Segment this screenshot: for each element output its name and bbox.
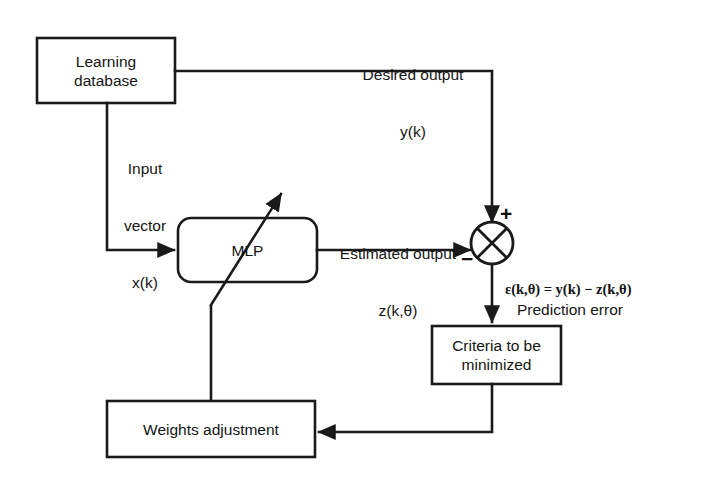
prediction-error-equation: ε(k,θ) = y(k) − z(k,θ): [505, 281, 631, 298]
plus-sign: +: [500, 203, 512, 224]
estimated-output-label: Estimated output z(k,θ): [340, 206, 456, 358]
diagram-canvas: Learning database MLP Criteria to be min…: [0, 0, 702, 498]
desired-output-label: Desired output y(k): [363, 27, 464, 179]
desired-output-line1: Desired output: [363, 65, 464, 84]
input-vector-line1: Input: [124, 159, 166, 178]
estimated-output-line1: Estimated output: [340, 244, 456, 263]
weights-adjustment-box: [107, 401, 315, 457]
criteria-to-weights-wire: [319, 384, 492, 432]
prediction-error-line1: Prediction error: [517, 300, 623, 319]
mlp-box: [178, 218, 317, 282]
input-vector-line2: vector: [124, 216, 166, 235]
input-vector-line3: x(k): [124, 273, 166, 292]
prediction-error-label: Prediction error: [517, 262, 623, 357]
learning-database-box: [37, 38, 175, 103]
input-vector-label: Input vector x(k): [124, 121, 166, 330]
summing-junction: [471, 222, 513, 264]
minus-sign: −: [461, 248, 473, 269]
desired-output-line2: y(k): [363, 122, 464, 141]
estimated-output-line2: z(k,θ): [340, 301, 456, 320]
